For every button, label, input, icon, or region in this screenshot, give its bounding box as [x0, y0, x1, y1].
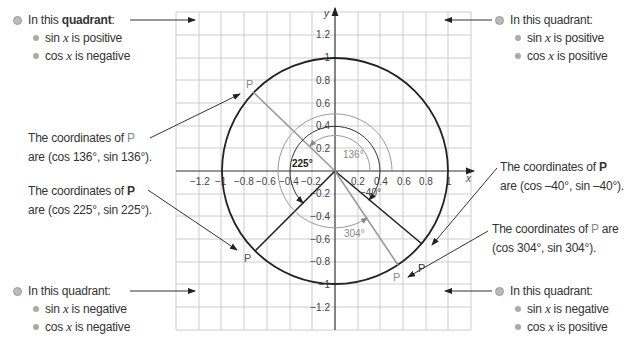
svg-text:−1.2: −1.2: [310, 302, 330, 313]
bullet-icon: [13, 287, 22, 296]
point-p-225: P: [244, 252, 251, 264]
callout-136: The coordinates of P are (cos 136°, sin …: [28, 129, 152, 167]
svg-text:0.8: 0.8: [419, 176, 433, 187]
callout-neg40: The coordinates of P are (cos –40°, sin …: [500, 158, 624, 196]
bullet-icon: [33, 324, 39, 330]
y-axis-label: y: [323, 8, 330, 19]
svg-text:0.6: 0.6: [316, 98, 330, 109]
angle-225-label: 225°: [292, 158, 313, 169]
quadrant-bottom-left: In this quadrant: sin x is negative cos …: [13, 283, 130, 336]
arrow-coord-136: [150, 94, 240, 138]
callout-304: The coordinates of P are (cos 304°, sin …: [492, 220, 618, 258]
angle-304-label: 304°: [344, 228, 365, 239]
bullet-icon: [33, 306, 39, 312]
bullet-icon: [495, 16, 504, 25]
svg-text:−1: −1: [215, 176, 227, 187]
angle-neg40-label: −40°: [360, 187, 381, 198]
quadrant-top-right: In this quadrant: sin x is positive cos …: [495, 12, 607, 65]
svg-text:−0.2: −0.2: [301, 176, 321, 187]
svg-text:0.4: 0.4: [374, 176, 388, 187]
arrow-coord-225: [148, 190, 237, 250]
x-axis-label: x: [465, 173, 472, 184]
svg-text:0.8: 0.8: [316, 75, 330, 86]
callout-225: The coordinates of P are (cos 225°, sin …: [28, 182, 152, 220]
svg-text:−0.6: −0.6: [256, 176, 276, 187]
svg-text:−0.8: −0.8: [310, 256, 330, 267]
bullet-icon: [515, 306, 521, 312]
point-p-304: P: [393, 271, 400, 283]
bullet-icon: [33, 53, 39, 59]
bullet-icon: [13, 16, 22, 25]
bullet-icon: [515, 35, 521, 41]
bullet-icon: [515, 53, 521, 59]
bullet-icon: [495, 287, 504, 296]
quadrant-bottom-right: In this quadrant: sin x is negative cos …: [495, 283, 609, 336]
angle-136-label: 136°: [343, 149, 364, 160]
svg-text:0.2: 0.2: [316, 143, 330, 154]
svg-text:−1.2: −1.2: [190, 176, 210, 187]
quadrant-top-left: In this quadrant: sin x is positive cos …: [13, 12, 130, 65]
bullet-icon: [515, 324, 521, 330]
svg-text:−0.8: −0.8: [234, 176, 254, 187]
svg-text:1.2: 1.2: [316, 29, 330, 40]
svg-text:−0.4: −0.4: [279, 176, 299, 187]
svg-text:−0.6: −0.6: [310, 234, 330, 245]
point-p-136: P: [246, 78, 253, 90]
bullet-icon: [33, 35, 39, 41]
svg-text:−0.4: −0.4: [310, 211, 330, 222]
svg-text:0.6: 0.6: [397, 176, 411, 187]
